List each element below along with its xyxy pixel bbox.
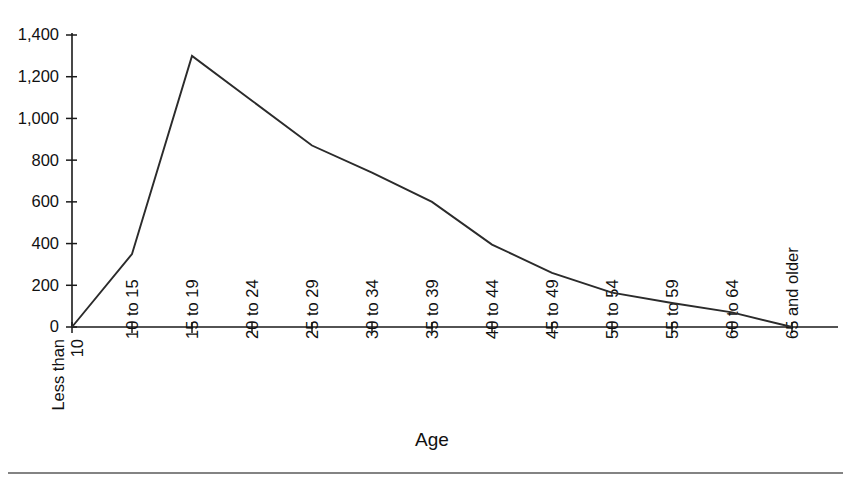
x-tick-label: 30 to 34	[363, 279, 381, 339]
y-tick-label: 600	[31, 192, 59, 210]
y-tick-label: 200	[31, 276, 59, 294]
y-tick-label: 1,000	[18, 109, 59, 127]
y-tick-label: 0	[50, 317, 59, 335]
x-tick-label: 45 to 49	[543, 279, 561, 339]
x-tick-label: 10 to 15	[123, 279, 141, 339]
y-tick-label: 1,200	[18, 67, 59, 85]
y-tick-label: 800	[31, 151, 59, 169]
x-tick-label: 60 to 64	[723, 279, 741, 339]
x-tick-label: 35 to 39	[423, 279, 441, 339]
x-axis-title: Age	[415, 429, 449, 450]
x-tick-label: 25 to 29	[303, 279, 321, 339]
x-tick-label: 55 to 59	[663, 279, 681, 339]
x-axis-tick-labels: Less than1010 to 1515 to 1920 to 2425 to…	[49, 247, 801, 411]
chart-figure: 02004006008001,0001,2001,400 Less than10…	[0, 0, 851, 483]
x-tick-label: 40 to 44	[483, 279, 501, 339]
y-tick-label: 1,400	[18, 25, 59, 43]
x-tick-label: 20 to 24	[243, 279, 261, 339]
x-tick-label: Less than10	[49, 339, 86, 411]
x-tick-label: 50 to 54	[603, 279, 621, 339]
x-tick-label: 15 to 19	[183, 279, 201, 339]
y-tick-label: 400	[31, 234, 59, 252]
line-chart: 02004006008001,0001,2001,400 Less than10…	[0, 0, 851, 483]
y-axis-tick-labels: 02004006008001,0001,2001,400	[18, 25, 59, 335]
